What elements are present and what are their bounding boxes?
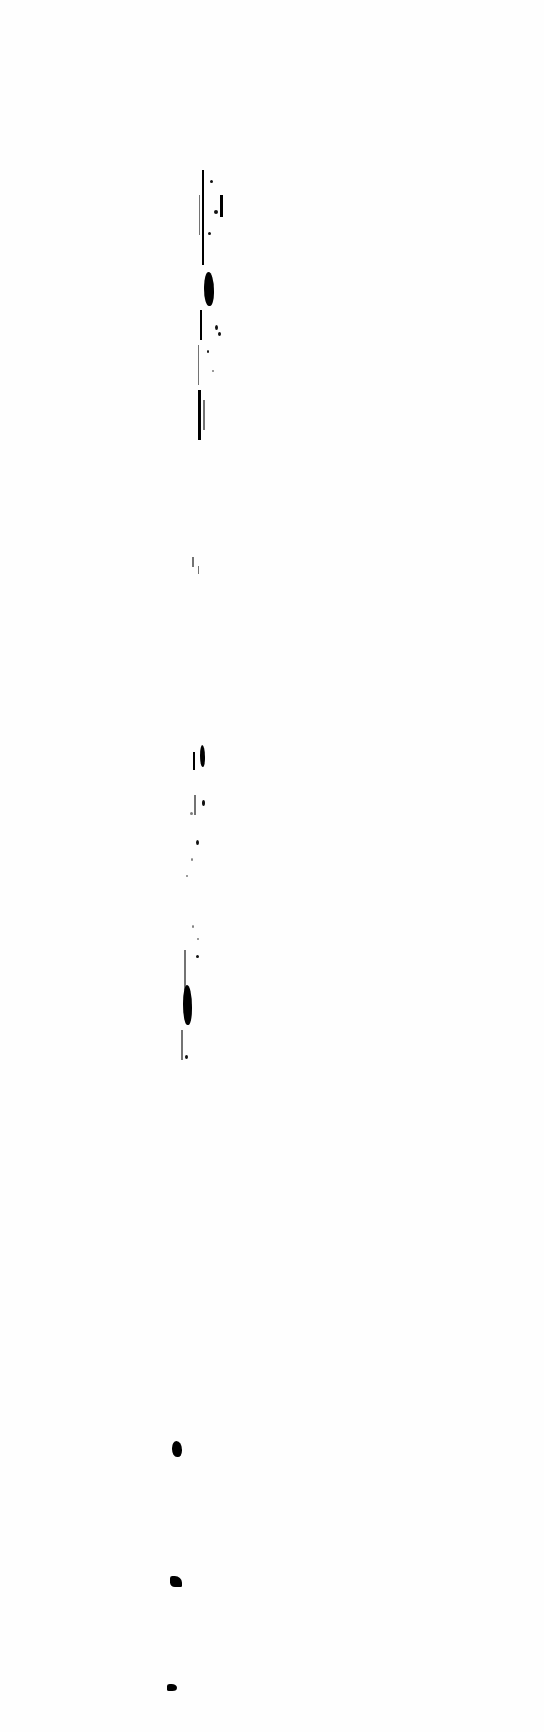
speck (186, 875, 188, 877)
speck (212, 370, 214, 372)
speck (196, 840, 199, 845)
ink-blob (172, 1441, 182, 1457)
speck (191, 858, 193, 861)
scanned-page (0, 0, 544, 1732)
speck (185, 1055, 188, 1059)
streak-line (181, 1030, 183, 1060)
streak-line (202, 170, 204, 265)
streak-line (200, 310, 202, 340)
streak-line (193, 752, 195, 770)
speck (218, 332, 221, 336)
speck (192, 925, 194, 928)
speck (210, 180, 213, 183)
streak-line (192, 557, 194, 567)
ink-blob (170, 1576, 182, 1587)
speck (190, 812, 193, 815)
ink-blob (200, 745, 205, 767)
ink-blob (204, 272, 214, 306)
speck (208, 232, 211, 235)
streak-line (199, 195, 200, 235)
streak-line (198, 345, 199, 385)
speck (214, 210, 218, 214)
ink-blob (183, 985, 192, 1025)
streak-line (194, 795, 196, 815)
streak-line (184, 950, 186, 990)
streak-line (198, 390, 201, 440)
speck (197, 938, 199, 940)
speck (215, 325, 218, 330)
streak-line (203, 400, 205, 430)
ink-blob (167, 1684, 177, 1691)
speck (202, 800, 205, 806)
speck (196, 955, 199, 958)
streak-line (220, 195, 223, 217)
streak-line (198, 566, 199, 574)
speck (207, 350, 209, 353)
